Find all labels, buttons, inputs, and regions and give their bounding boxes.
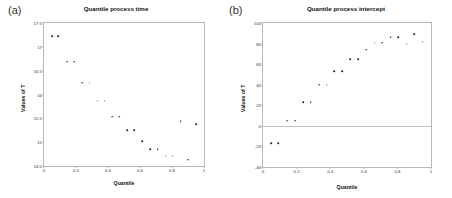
panel-b-xtick-label: 0	[262, 169, 264, 174]
panel-a-data-point	[89, 82, 91, 84]
panel-b-data-point	[374, 42, 376, 44]
panel-a-data-point	[74, 61, 76, 63]
panel-b-ytick-label: 100	[254, 21, 261, 26]
panel-b-data-point	[390, 37, 392, 39]
panel-b-ytick-label: 80	[256, 41, 261, 46]
panel-a-data-point	[97, 100, 99, 102]
panel-b-title: Quantile process intercept	[276, 5, 416, 12]
panel-b-ytick-label: -40	[255, 165, 261, 170]
panel-a-data-point	[187, 159, 189, 161]
panel-a-data-point	[58, 36, 60, 38]
panel-b-data-point	[310, 101, 312, 103]
panel-a-data-point	[51, 36, 53, 38]
panel-b-data-point	[334, 71, 336, 73]
panel-b-ytick-mark	[261, 125, 263, 126]
panel-a-xtick-label: 0.4	[105, 168, 111, 173]
panel-a-ytick-label: 17.5	[34, 21, 42, 26]
panel-b-ytick-label: 60	[256, 62, 261, 67]
panel-a-data-point	[134, 129, 136, 131]
panel-a-xlabel: Quantile	[43, 180, 205, 186]
panel-b-ytick-label: -20	[255, 144, 261, 149]
panel-a-ytick-mark	[42, 94, 44, 95]
panel-b: (b) Quantile process intercept -40-20020…	[226, 0, 452, 198]
panel-b-ytick-mark	[261, 84, 263, 85]
panel-b-data-point	[277, 143, 279, 145]
panel-a-ytick-label: 16.5	[34, 68, 42, 73]
panel-b-xtick-label: 1	[430, 169, 432, 174]
panel-b-ytick-mark	[261, 64, 263, 65]
panel-a-ytick-mark	[42, 142, 44, 143]
panel-b-data-point	[341, 71, 343, 73]
panel-b-data-point	[294, 120, 296, 122]
panel-a-ytick-label: 16	[37, 92, 42, 97]
figure-two-panel-scatter: (a) Quantile process time 14.51515.51616…	[0, 0, 452, 198]
panel-b-ytick-mark	[261, 23, 263, 24]
panel-a-ytick-label: 15.5	[34, 116, 42, 121]
panel-b-ytick-mark	[261, 105, 263, 106]
panel-a-data-point	[126, 129, 128, 131]
panel-a-ytick-mark	[42, 70, 44, 71]
panel-a-data-point	[165, 155, 167, 157]
panel-a-data-point	[157, 149, 159, 151]
panel-b-data-point	[271, 143, 273, 145]
panel-b-zero-line	[263, 126, 431, 127]
panel-a-xtick-label: 0.6	[137, 168, 143, 173]
panel-a-data-point	[172, 155, 174, 157]
panel-a-data-point	[104, 100, 106, 102]
panel-b-xlabel: Quantile	[262, 184, 432, 190]
panel-b-data-point	[397, 37, 399, 39]
panel-a-plot-area: 14.51515.51616.51717.500.20.40.60.81	[43, 22, 205, 167]
panel-b-xtick-label: 0.2	[294, 169, 300, 174]
panel-b-data-point	[422, 41, 424, 43]
panel-b-ytick-label: 40	[256, 82, 261, 87]
panel-b-ytick-label: 0	[259, 123, 261, 128]
panel-b-data-point	[406, 43, 408, 45]
panel-b-xtick-label: 0.6	[361, 169, 367, 174]
panel-a-xtick-label: 0.2	[73, 168, 79, 173]
panel-a-data-point	[82, 82, 84, 84]
panel-b-ytick-mark	[261, 43, 263, 44]
panel-b-data-point	[350, 58, 352, 60]
panel-b-data-point	[357, 58, 359, 60]
panel-a-xtick-label: 0.8	[169, 168, 175, 173]
panel-a-ylabel: Values of T	[20, 85, 26, 112]
panel-b-data-point	[318, 84, 320, 86]
panel-b-data-point	[303, 101, 305, 103]
panel-a-data-point	[195, 123, 197, 125]
panel-a: (a) Quantile process time 14.51515.51616…	[0, 0, 226, 198]
panel-a-ytick-label: 15	[37, 140, 42, 145]
panel-a-data-point	[118, 116, 120, 118]
panel-a-data-point	[150, 149, 152, 151]
panel-a-ytick-label: 14.5	[34, 164, 42, 169]
panel-b-plot-area: -40-2002040608010000.20.40.60.81	[262, 22, 432, 168]
panel-a-ytick-mark	[42, 46, 44, 47]
panel-a-tag: (a)	[8, 4, 21, 16]
panel-b-ytick-mark	[261, 146, 263, 147]
panel-b-data-point	[287, 120, 289, 122]
panel-a-data-point	[111, 116, 113, 118]
panel-a-ytick-label: 17	[37, 44, 42, 49]
panel-b-xtick-label: 0.4	[327, 169, 333, 174]
panel-b-data-point	[381, 42, 383, 44]
panel-b-ytick-label: 20	[256, 103, 261, 108]
panel-a-xtick-label: 0	[43, 168, 45, 173]
panel-a-data-point	[66, 61, 68, 63]
panel-b-tag: (b)	[229, 4, 242, 16]
panel-a-ytick-mark	[42, 23, 44, 24]
panel-b-data-point	[366, 49, 368, 51]
panel-b-data-point	[326, 84, 328, 86]
panel-b-data-point	[413, 34, 415, 36]
panel-a-data-point	[142, 140, 144, 142]
panel-a-title: Quantile process time	[56, 5, 176, 12]
panel-a-ytick-mark	[42, 118, 44, 119]
panel-a-xtick-label: 1	[203, 168, 205, 173]
panel-b-xtick-label: 0.8	[394, 169, 400, 174]
panel-a-data-point	[180, 120, 182, 122]
panel-b-ylabel: Values of T	[240, 85, 246, 112]
